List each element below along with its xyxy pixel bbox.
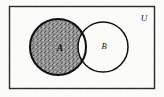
set-label-a: A [56, 43, 63, 53]
set-label-b: B [101, 41, 106, 51]
universal-set-label: U [141, 13, 148, 23]
venn-diagram-canvas: A B U [0, 0, 164, 97]
venn-diagram-figure: A B U [0, 0, 164, 97]
